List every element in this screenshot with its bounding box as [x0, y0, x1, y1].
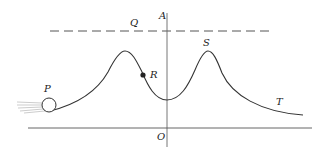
- motion-streaks: [17, 102, 45, 113]
- label-t: T: [276, 96, 284, 107]
- label-s: S: [203, 37, 210, 48]
- potential-curve: [50, 51, 303, 115]
- ball-p: [42, 98, 56, 112]
- label-q: Q: [130, 17, 138, 28]
- diagram-canvas: A Q S R P T O: [0, 0, 323, 152]
- label-o: O: [157, 131, 165, 142]
- label-r: R: [149, 69, 158, 80]
- label-a: A: [158, 10, 166, 21]
- point-r: [140, 72, 145, 77]
- label-p: P: [43, 83, 51, 94]
